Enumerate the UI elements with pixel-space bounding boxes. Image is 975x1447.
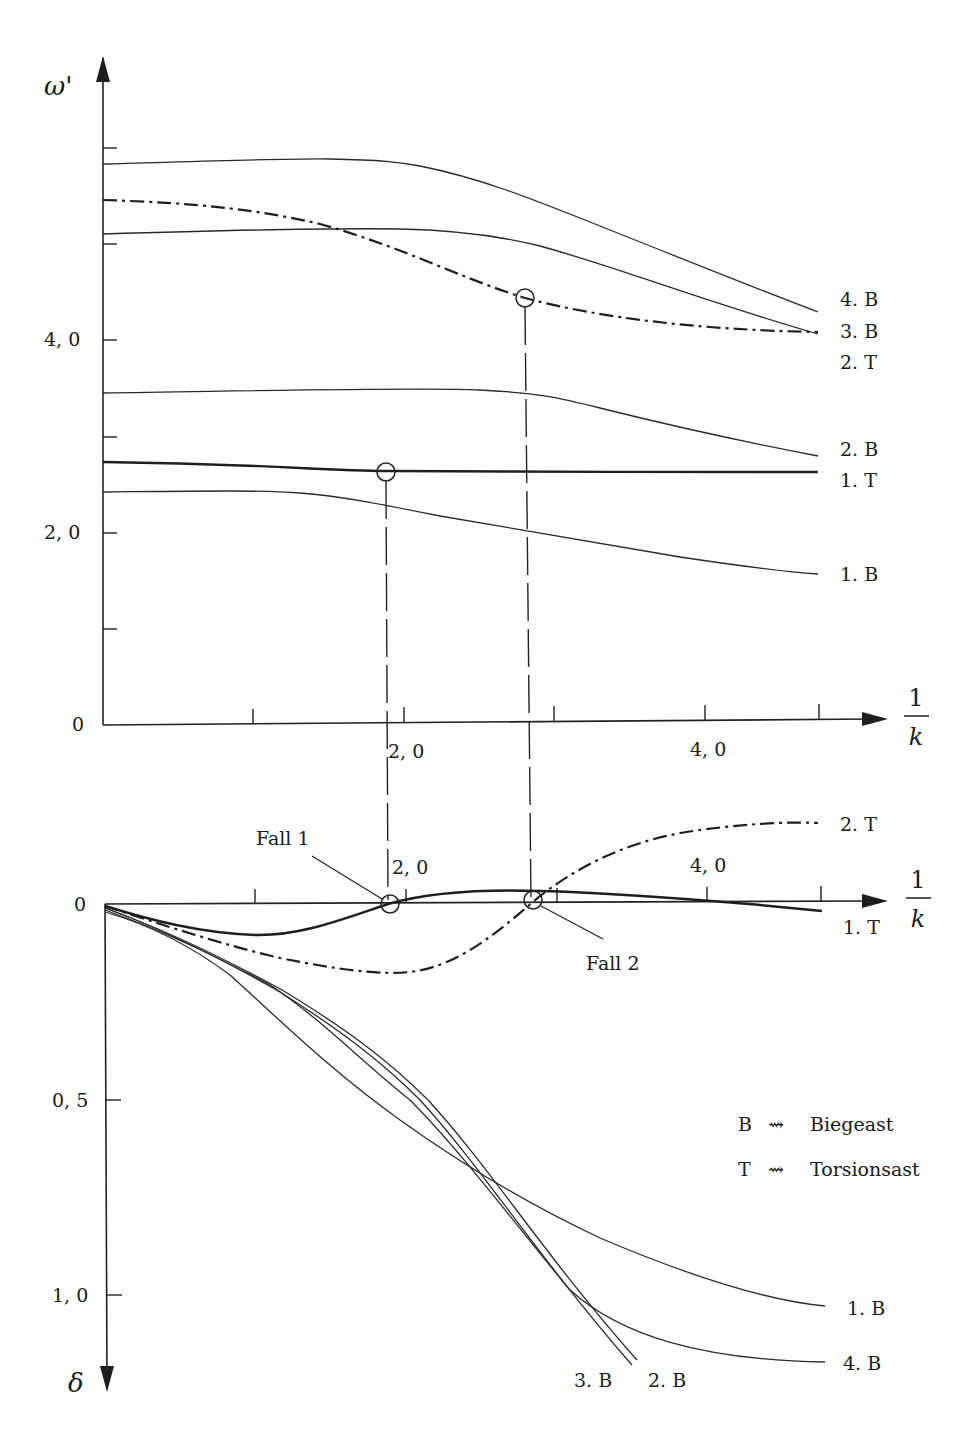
upper-chart: 4, 0 2, 0 0 2, 0 4, 0 ω' 1 k 4. B 3. B 2…	[44, 56, 929, 762]
lower-x-tick-label: 4, 0	[690, 854, 726, 876]
fall-2-leader	[541, 906, 603, 939]
lower-y-ticks	[106, 1100, 122, 1295]
chart-figure: 4, 0 2, 0 0 2, 0 4, 0 ω' 1 k 4. B 3. B 2…	[0, 0, 975, 1447]
lower-y-tick-label: 1, 0	[52, 1284, 88, 1306]
upper-x-axis-label: 1 k	[904, 684, 929, 751]
curve-label-1B: 1. B	[840, 563, 878, 585]
lower-y-tick-label: 0, 5	[52, 1089, 88, 1111]
curve-1B-upper	[103, 491, 818, 574]
curve-2B-lower	[105, 908, 637, 1360]
upper-y-tick-label: 2, 0	[44, 521, 80, 543]
fall-2-marker	[524, 891, 542, 909]
curve-2B-upper	[103, 389, 818, 456]
curve-4B-upper	[103, 159, 818, 312]
curve-label-4B: 4. B	[840, 288, 878, 310]
lower-chart: 0 0, 5 1, 0 2, 0 4, 0 δ 1 k Fall 1 Fall …	[52, 813, 931, 1398]
curve-label-2T: 2. T	[840, 351, 877, 373]
lower-y-axis-label: δ	[68, 1368, 84, 1398]
curve-label-4B-lower: 4. B	[843, 1352, 881, 1374]
leadsto-icon: ⇝	[768, 1158, 784, 1180]
svg-text:k: k	[909, 723, 924, 751]
lower-y-tick-label: 0	[74, 893, 86, 915]
curve-4B-lower	[105, 910, 825, 1362]
curve-label-1T-lower: 1. T	[843, 916, 880, 938]
upper-y-tick-label: 0	[72, 713, 84, 735]
legend-text-torsionsast: Torsionsast	[810, 1158, 920, 1180]
upper-y-ticks	[103, 148, 117, 629]
svg-text:1: 1	[908, 684, 923, 712]
fall-1-label: Fall 1	[256, 827, 310, 849]
leadsto-icon: ⇝	[768, 1113, 784, 1135]
lower-y-axis	[105, 904, 107, 1380]
guide-line-fall-1	[386, 481, 388, 900]
lower-x-arrow-icon	[862, 894, 888, 908]
lower-x-axis-label: 1 k	[906, 866, 931, 933]
curve-label-3B-lower: 3. B	[574, 1369, 612, 1391]
guide-line-fall-2	[525, 307, 531, 900]
svg-text:k: k	[911, 905, 926, 933]
legend: B ⇝ Biegeast T ⇝ Torsionsast	[738, 1113, 920, 1180]
lower-y-arrow-icon	[100, 1366, 114, 1392]
legend-text-biegeast: Biegeast	[810, 1113, 894, 1135]
upper-x-tick-label: 4, 0	[690, 738, 726, 760]
curve-1B-lower	[105, 912, 825, 1306]
fall-2-label: Fall 2	[586, 952, 640, 974]
curve-label-2B: 2. B	[840, 438, 878, 460]
upper-y-arrow-icon	[96, 56, 110, 82]
curve-3B-upper	[103, 229, 818, 334]
curve-1T-lower	[105, 890, 822, 935]
curve-label-1T: 1. T	[840, 469, 877, 491]
curve-2T-upper	[103, 200, 818, 332]
curve-label-1B-lower: 1. B	[847, 1297, 885, 1319]
upper-x-axis	[103, 719, 870, 725]
upper-x-tick-label: 2, 0	[388, 740, 424, 762]
curve-label-3B: 3. B	[840, 320, 878, 342]
legend-key-b: B	[738, 1113, 752, 1135]
fall-1-leader	[312, 856, 382, 899]
curve-label-2T-lower: 2. T	[840, 813, 877, 835]
legend-key-t: T	[738, 1158, 751, 1180]
curve-3B-lower	[105, 908, 632, 1365]
svg-text:1: 1	[910, 866, 925, 894]
upper-x-arrow-icon	[862, 712, 888, 726]
curve-2T-lower	[105, 823, 818, 973]
upper-y-axis-label: ω'	[44, 71, 72, 101]
lower-x-tick-label: 2, 0	[392, 856, 428, 878]
upper-y-tick-label: 4, 0	[44, 328, 80, 350]
curve-1T-upper	[103, 462, 818, 472]
curve-label-2B-lower: 2. B	[648, 1369, 686, 1391]
